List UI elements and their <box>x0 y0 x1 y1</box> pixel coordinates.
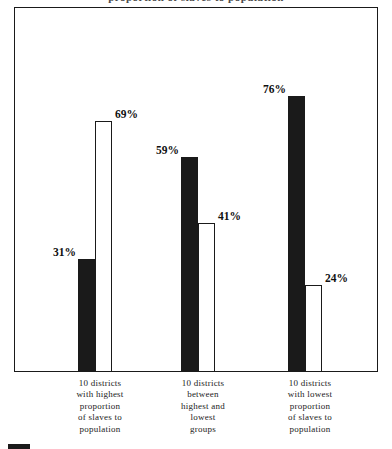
category-label-lowest-line-1: 10 districts <box>252 378 368 389</box>
cropped-title-remnant: proportion of slaves to population <box>0 0 392 4</box>
category-label-lowest-line-2: with lowest <box>252 389 368 400</box>
category-label-between-line-3: highest and <box>145 401 261 412</box>
category-label-highest: 10 districts with highest proportion of … <box>42 378 158 435</box>
category-label-between-line-2: between <box>145 389 261 400</box>
category-label-between-line-4: lowest <box>145 412 261 423</box>
cropped-title-text: proportion of slaves to population <box>0 0 392 3</box>
category-label-highest-line-4: of slaves to <box>42 412 158 423</box>
category-label-between: 10 districts between highest and lowest … <box>145 378 261 435</box>
plot-frame <box>14 7 378 372</box>
category-labels: 10 districts with highest proportion of … <box>0 378 392 444</box>
category-label-highest-line-5: population <box>42 424 158 435</box>
legend-strip <box>0 444 392 449</box>
category-label-lowest: 10 districts with lowest proportion of s… <box>252 378 368 435</box>
category-label-lowest-line-4: of slaves to <box>252 412 368 423</box>
category-label-highest-line-1: 10 districts <box>42 378 158 389</box>
category-label-highest-line-3: proportion <box>42 401 158 412</box>
category-label-between-line-5: groups <box>145 424 261 435</box>
category-label-lowest-line-3: proportion <box>252 401 368 412</box>
legend-swatch-filled <box>8 444 30 449</box>
category-label-lowest-line-5: population <box>252 424 368 435</box>
category-label-highest-line-2: with highest <box>42 389 158 400</box>
category-label-between-line-1: 10 districts <box>145 378 261 389</box>
